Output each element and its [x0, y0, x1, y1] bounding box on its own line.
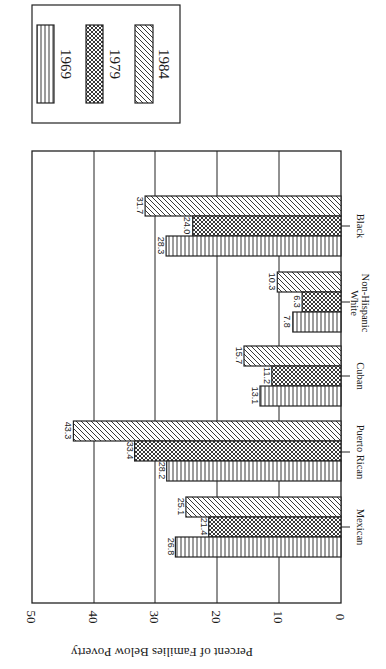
- value-label: 28.3: [155, 231, 166, 261]
- value-label: 15.7: [233, 341, 244, 371]
- value-label: 26.8: [165, 532, 176, 562]
- value-label: 11.2: [261, 361, 272, 391]
- legend-swatch-1979: [86, 25, 103, 103]
- category-label-puerto-rican: Puerto Rican: [352, 417, 366, 487]
- value-label: 13.1: [249, 381, 260, 411]
- bar-cuban-1979: [272, 366, 341, 386]
- bar-nhw-1984: [277, 272, 341, 292]
- chart-canvas: [0, 0, 386, 669]
- legend-swatch-1984: [135, 25, 153, 103]
- bar-pr-1984: [73, 421, 341, 441]
- value-label: 31.7: [134, 191, 145, 221]
- value-label: 25.1: [175, 492, 186, 522]
- bar-nhw-1979: [302, 292, 341, 312]
- value-label: 7.8: [281, 307, 292, 337]
- bar-cuban-1984: [244, 346, 341, 366]
- value-label: 43.3: [62, 416, 73, 446]
- bar-black-1984: [145, 196, 341, 216]
- bar-mexican-1979: [209, 517, 341, 537]
- category-label-cuban: Cuban: [352, 351, 366, 401]
- category-label-mexican: Mexican: [352, 497, 366, 557]
- axis-tick-40: 40: [87, 607, 101, 627]
- bar-cuban-1969: [260, 386, 341, 406]
- legend-swatch-1969: [37, 25, 54, 103]
- value-label: 24.0: [181, 211, 192, 241]
- value-label: 33.4: [124, 436, 135, 466]
- axis-tick-20: 20: [210, 607, 224, 627]
- value-label: 21.4: [198, 512, 209, 542]
- category-label-black: Black: [352, 201, 366, 251]
- bars: [73, 196, 341, 557]
- value-label: 6.3: [291, 287, 302, 317]
- value-axis-label: Percent of Families Below Poverty: [52, 644, 272, 660]
- axis-tick-30: 30: [148, 607, 162, 627]
- axis-tick-10: 10: [272, 607, 286, 627]
- category-label-non-hispanic-white: Non-Hispanic White: [347, 268, 371, 338]
- value-label: 10.3: [266, 267, 277, 297]
- value-label: 28.2: [156, 456, 167, 486]
- legend-label-1969: 1969: [58, 44, 74, 84]
- bar-pr-1969: [167, 461, 341, 481]
- bar-mexican-1984: [186, 497, 341, 517]
- legend-label-1984: 1984: [156, 44, 172, 84]
- bar-black-1979: [193, 216, 341, 236]
- axis-tick-50: 50: [25, 607, 39, 627]
- bar-black-1969: [166, 236, 341, 256]
- legend-label-1979: 1979: [107, 44, 123, 84]
- axis-tick-0: 0: [334, 607, 348, 627]
